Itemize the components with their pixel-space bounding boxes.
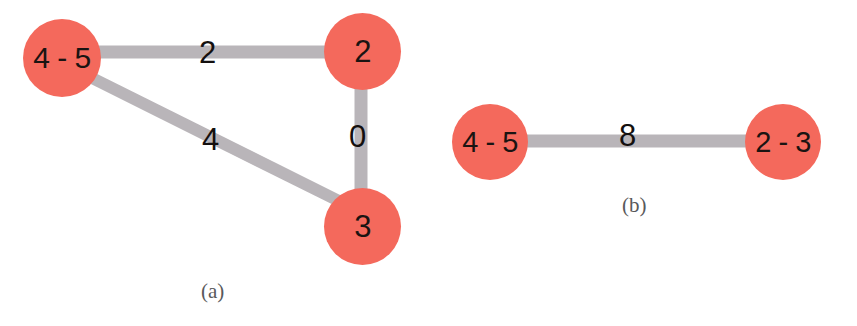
panel-caption-a: (a) (201, 281, 224, 302)
graph-panel-b: 4 - 5 2 - 3 8 (b) (430, 0, 857, 326)
edge-weight-label-45-3: 4 (202, 124, 219, 155)
edge-weight-label-45-2: 2 (199, 37, 216, 68)
graph-node-label: 2 - 3 (755, 128, 811, 157)
edge-weight-label-2-3: 0 (349, 121, 366, 152)
figure-container: 4 - 5 2 3 2 4 0 (a) 4 - 5 2 - 3 8 (b) (0, 0, 857, 326)
graph-node-2-3[interactable]: 2 - 3 (745, 104, 821, 180)
edge-weight-label-45-23: 8 (619, 120, 636, 151)
graph-node-4-5[interactable]: 4 - 5 (23, 19, 101, 97)
graph-node-4-5[interactable]: 4 - 5 (452, 104, 528, 180)
graph-node-label: 2 (354, 36, 371, 67)
graph-node-label: 4 - 5 (33, 43, 91, 73)
panel-caption-b: (b) (622, 195, 647, 216)
graph-node-label: 3 (354, 211, 371, 242)
graph-node-3[interactable]: 3 (324, 188, 401, 265)
graph-node-2[interactable]: 2 (324, 13, 401, 90)
graph-node-label: 4 - 5 (462, 128, 518, 157)
graph-panel-a: 4 - 5 2 3 2 4 0 (a) (0, 0, 430, 326)
